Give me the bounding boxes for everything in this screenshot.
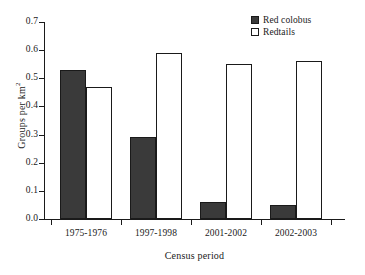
x-axis-tick-label: 2001-2002 [191, 228, 261, 239]
y-axis-title-text: Groups per km [16, 86, 27, 149]
y-axis-tick-label: 0.5 [26, 73, 38, 83]
bar-redtails [86, 87, 112, 219]
chart-figure: 0.00.10.20.30.40.50.60.7 1975-19761997-1… [0, 0, 365, 275]
legend-label: Red colobus [263, 14, 311, 26]
x-axis-tick [261, 220, 262, 225]
plot-area [44, 22, 345, 219]
bar-redtails [296, 61, 322, 219]
bar-red-colobus [130, 137, 156, 219]
bar-red-colobus [60, 70, 86, 219]
legend-swatch-icon [251, 16, 259, 24]
bar-red-colobus [200, 202, 226, 219]
x-axis-tick [121, 220, 122, 225]
legend-label: Redtails [263, 26, 295, 38]
y-axis-tick-label: 0.1 [26, 186, 38, 196]
y-axis-tick-label: 0.0 [26, 214, 38, 224]
y-axis-title-superscript: 2 [14, 82, 22, 86]
bar-redtails [156, 53, 182, 219]
x-axis-tick [191, 220, 192, 225]
x-axis-tick-label: 2002-2003 [261, 228, 331, 239]
legend-item: Red colobus [251, 14, 311, 26]
x-axis-tick [331, 220, 332, 225]
legend-item: Redtails [251, 26, 311, 38]
bar-redtails [226, 64, 252, 219]
y-axis-tick-label: 0.4 [26, 101, 38, 111]
y-axis-tick-label: 0.6 [26, 45, 38, 55]
y-axis-tick-label: 0.7 [26, 17, 38, 27]
y-axis-tick-label: 0.3 [26, 130, 38, 140]
x-axis-tick-label: 1997-1998 [121, 228, 191, 239]
chart-legend: Red colobusRedtails [251, 14, 311, 38]
x-axis-tick-label: 1975-1976 [51, 228, 121, 239]
y-axis-title: Groups per km2 [16, 41, 27, 191]
bar-red-colobus [270, 205, 296, 219]
x-axis-title: Census period [44, 250, 345, 261]
x-axis-line [44, 219, 345, 220]
legend-swatch-icon [251, 28, 259, 36]
y-axis-tick-label: 0.2 [26, 158, 38, 168]
x-axis-tick [51, 220, 52, 225]
